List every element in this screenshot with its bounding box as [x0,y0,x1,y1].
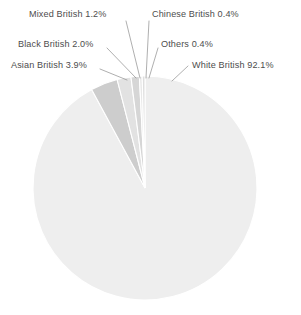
pie-label-white-british: White British 92.1% [192,60,274,71]
pie-label-others: Others 0.4% [161,39,213,50]
leader-line-asian-british [100,69,127,80]
pie-slices-group [33,76,257,300]
leader-line-chinese-british [146,21,149,78]
pie-label-chinese-british: Chinese British 0.4% [152,9,239,20]
pie-label-asian-british: Asian British 3.9% [11,60,87,71]
leader-line-white-british [172,66,188,81]
pie-chart: Mixed British 1.2% Chinese British 0.4% … [0,0,301,315]
pie-label-black-british: Black British 2.0% [18,39,93,50]
pie-label-mixed-british: Mixed British 1.2% [29,9,106,20]
leader-line-others [149,48,158,78]
leader-lines-group [100,21,188,81]
